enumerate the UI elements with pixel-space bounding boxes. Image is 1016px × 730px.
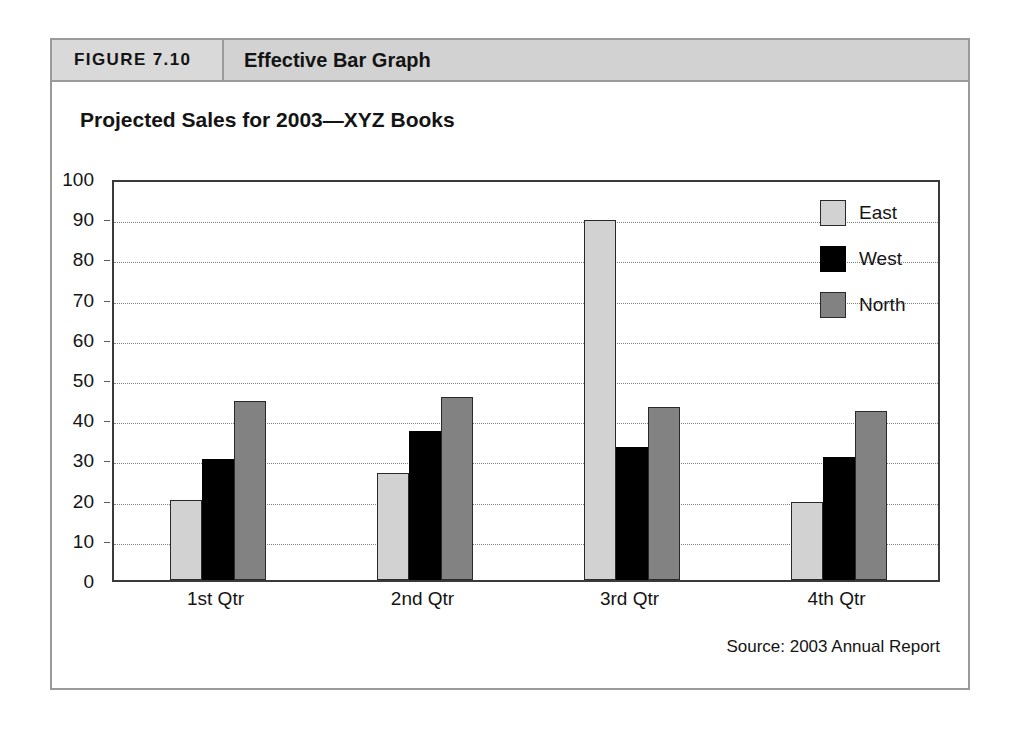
- bar-west-4: [823, 457, 855, 580]
- source-note: Source: 2003 Annual Report: [726, 637, 940, 657]
- y-axis-tick-label: 40: [73, 410, 94, 432]
- legend-swatch-east: [820, 200, 846, 226]
- x-axis-tick-label: 1st Qtr: [187, 588, 244, 610]
- y-axis-tick-label: 0: [83, 571, 94, 593]
- chart-title: Projected Sales for 2003—XYZ Books: [80, 108, 455, 132]
- y-axis-tick-label: 70: [73, 290, 94, 312]
- y-axis-tick-label: 20: [73, 491, 94, 513]
- bar-east-2: [377, 473, 409, 580]
- chart-legend: EastWestNorth: [820, 200, 905, 318]
- legend-item-west: West: [820, 246, 905, 272]
- bars-layer: [114, 182, 938, 580]
- legend-label-north: North: [859, 294, 905, 316]
- legend-swatch-north: [820, 292, 846, 318]
- bar-north-4: [855, 411, 887, 580]
- y-axis-tick: [104, 220, 110, 221]
- bar-east-4: [791, 502, 823, 580]
- figure-header: FIGURE 7.10 Effective Bar Graph: [52, 40, 968, 82]
- bar-group: [170, 182, 266, 580]
- y-axis-tick-label: 50: [73, 370, 94, 392]
- x-axis-tick-label: 4th Qtr: [807, 588, 865, 610]
- legend-item-east: East: [820, 200, 905, 226]
- figure-number-label: FIGURE 7.10: [52, 40, 224, 80]
- bar-north-3: [648, 407, 680, 580]
- y-axis-labels: 0102030405060708090100: [52, 180, 104, 582]
- figure-frame: FIGURE 7.10 Effective Bar Graph Projecte…: [50, 38, 970, 690]
- bar-group: [377, 182, 473, 580]
- y-axis-tick-label: 10: [73, 531, 94, 553]
- bar-east-3: [584, 220, 616, 580]
- bar-west-3: [616, 447, 648, 580]
- x-axis-tick-label: 2nd Qtr: [391, 588, 454, 610]
- x-axis-labels: 1st Qtr2nd Qtr3rd Qtr4th Qtr: [112, 588, 940, 618]
- legend-label-east: East: [859, 202, 897, 224]
- legend-swatch-west: [820, 246, 846, 272]
- y-axis-tick: [104, 461, 110, 462]
- y-axis-tick: [104, 301, 110, 302]
- x-axis-tick-label: 3rd Qtr: [600, 588, 659, 610]
- chart-body: Projected Sales for 2003—XYZ Books 01020…: [52, 82, 968, 688]
- y-axis-tick-label: 60: [73, 330, 94, 352]
- bar-group: [584, 182, 680, 580]
- legend-label-west: West: [859, 248, 902, 270]
- bar-west-2: [409, 431, 441, 580]
- y-axis-tick-label: 100: [62, 169, 94, 191]
- plot-area: [112, 180, 940, 582]
- y-axis-tick: [104, 502, 110, 503]
- y-axis-tick: [104, 421, 110, 422]
- bar-north-1: [234, 401, 266, 580]
- y-axis-tick-label: 90: [73, 209, 94, 231]
- y-axis-tick: [104, 260, 110, 261]
- y-axis-tick-label: 30: [73, 450, 94, 472]
- bar-east-1: [170, 500, 202, 580]
- bar-north-2: [441, 397, 473, 580]
- y-axis-tick: [104, 542, 110, 543]
- y-axis-tick-label: 80: [73, 249, 94, 271]
- y-axis-tick: [104, 381, 110, 382]
- legend-item-north: North: [820, 292, 905, 318]
- y-axis-tick: [104, 341, 110, 342]
- figure-caption: Effective Bar Graph: [224, 40, 968, 80]
- bar-west-1: [202, 459, 234, 580]
